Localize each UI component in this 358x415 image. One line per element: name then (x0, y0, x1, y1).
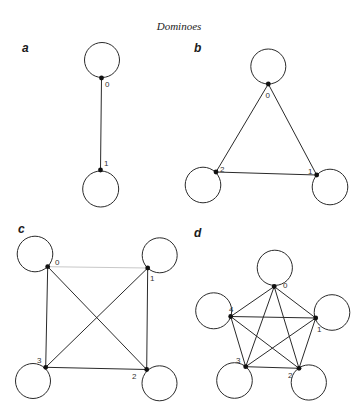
edge-0-3 (246, 287, 275, 367)
vertex-1 (314, 173, 319, 178)
vertex-2 (214, 170, 219, 175)
vertex-label-0: 0 (283, 281, 288, 290)
vertex-0 (45, 264, 50, 269)
vertex-label-0: 0 (105, 80, 110, 89)
vertex-label-2: 2 (288, 371, 293, 380)
panel-a-graph: 01a (22, 41, 120, 207)
edge-1-2 (216, 172, 317, 175)
vertex-0 (272, 284, 277, 289)
edge-0-1 (268, 84, 316, 175)
vertex-label-1: 1 (317, 325, 322, 334)
vertex-1 (98, 168, 103, 173)
edge-0-3 (46, 267, 48, 368)
vertex-label-0: 0 (266, 91, 271, 100)
edge-0-1 (274, 287, 316, 319)
vertex-2 (144, 367, 149, 372)
edge-2-3 (246, 367, 299, 369)
vertex-label-4: 4 (229, 305, 234, 314)
edge-2-3 (46, 367, 147, 369)
panel-b-graph: 012b (185, 41, 348, 205)
self-loop-4 (196, 293, 232, 329)
edge-0-1 (48, 267, 148, 268)
panel-label-b: b (194, 41, 201, 55)
edge-1-2 (299, 318, 316, 368)
panel-label-a: a (22, 41, 29, 55)
vertex-4 (228, 314, 233, 319)
vertex-label-0: 0 (55, 258, 60, 267)
vertex-2 (297, 366, 302, 371)
vertex-label-1: 1 (150, 274, 155, 283)
panel-label-d: d (194, 226, 202, 240)
vertex-label-1: 1 (104, 159, 109, 168)
edge-1-3 (46, 268, 148, 367)
vertex-label-3: 3 (37, 356, 42, 365)
vertex-1 (313, 316, 318, 321)
edge-0-1 (101, 78, 102, 170)
vertex-3 (43, 365, 48, 370)
self-loop-0 (85, 43, 120, 78)
edge-1-2 (147, 268, 148, 370)
panel-c-graph: 0123c (16, 222, 178, 401)
vertex-label-2: 2 (132, 372, 137, 381)
edge-2-4 (231, 317, 299, 369)
vertex-label-1: 1 (308, 167, 313, 176)
edge-1-4 (231, 317, 316, 319)
edge-0-2 (274, 287, 299, 369)
panel-label-c: c (18, 222, 25, 236)
edge-0-2 (216, 84, 268, 172)
domino-graphs-figure: 01a 012b 0123c 01234d (0, 0, 358, 415)
vertex-label-3: 3 (236, 356, 241, 365)
vertex-0 (266, 82, 271, 87)
edge-0-4 (231, 287, 275, 317)
panel-d-graph: 01234d (194, 226, 350, 400)
edge-1-3 (246, 318, 316, 367)
vertex-3 (243, 364, 248, 369)
vertex-0 (99, 76, 104, 81)
self-loop-2 (291, 365, 326, 400)
vertex-1 (145, 266, 150, 271)
edge-0-2 (48, 267, 147, 370)
self-loop-0 (251, 49, 286, 84)
self-loop-1 (83, 171, 119, 207)
vertex-label-2: 2 (220, 165, 225, 174)
